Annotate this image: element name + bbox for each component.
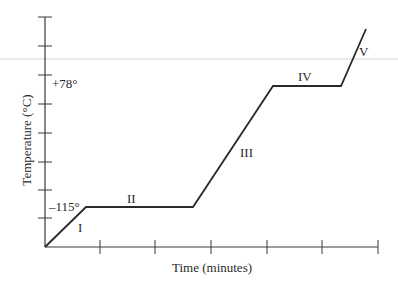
x-axis-title: Time (minutes) (172, 260, 252, 275)
y-axis-title: Temperature (°C) (19, 94, 34, 185)
segment-label-1: I (78, 220, 82, 235)
segment-label-2: II (127, 191, 136, 206)
y-label-minus115: –115° (48, 199, 80, 214)
heating-curve-line (45, 29, 366, 247)
segment-label-3: III (240, 145, 253, 160)
y-label-plus78: +78° (52, 76, 78, 91)
segment-label-5: V (359, 44, 369, 59)
heating-curve-chart: +78° –115° I II III IV V Time (minutes) … (0, 0, 398, 285)
segment-label-4: IV (298, 69, 312, 84)
